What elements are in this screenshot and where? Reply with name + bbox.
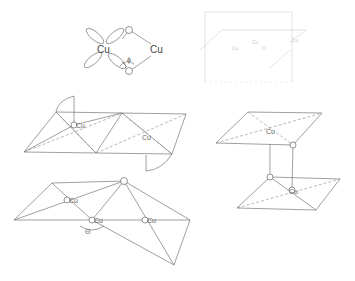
svg-text:Cu: Cu <box>289 188 298 195</box>
svg-text:Cu: Cu <box>252 39 259 45</box>
carboxylate-bridge-panel: Cu Cu ϕ <box>82 26 163 75</box>
phi-label: ϕ <box>127 56 131 64</box>
svg-text:Cu: Cu <box>292 37 299 43</box>
svg-text:Θ: Θ <box>85 228 91 235</box>
svg-text:Cu: Cu <box>147 217 156 224</box>
cu-label: Cu <box>150 44 163 55</box>
svg-text:Cu: Cu <box>232 45 239 51</box>
structure-diagram: Cu Cu ϕ Cu Cu O Cu <box>0 0 355 281</box>
oxygen-atom <box>290 142 296 148</box>
svg-text:O: O <box>262 45 266 51</box>
svg-text:Cu: Cu <box>76 122 85 129</box>
oxygen-atom <box>126 27 133 34</box>
stacked-planes-panel: Cu Cu <box>216 112 340 210</box>
svg-text:Cu: Cu <box>69 197 78 204</box>
oxygen-atom <box>121 178 128 185</box>
oxygen-atom <box>267 174 273 180</box>
faint-projection-panel: Cu Cu O Cu <box>200 12 306 82</box>
cu-label: Cu <box>97 44 110 55</box>
svg-text:Cu: Cu <box>94 217 103 224</box>
svg-text:Cu: Cu <box>142 134 151 141</box>
corner-sharing-panel: Cu Cu Cu Θ <box>14 178 190 266</box>
svg-text:Cu: Cu <box>266 128 275 135</box>
edge-sharing-panel: Cu Cu <box>24 96 186 171</box>
oxygen-atom <box>126 68 133 75</box>
